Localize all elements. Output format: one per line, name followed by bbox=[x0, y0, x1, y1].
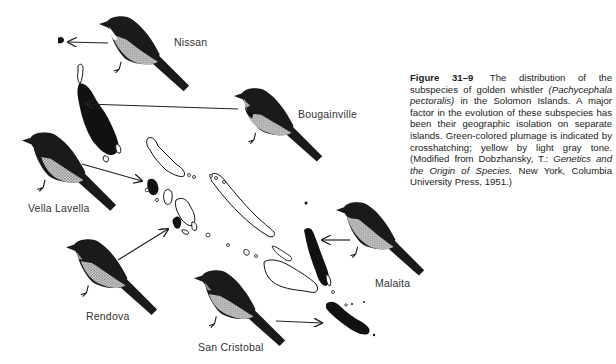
island-bougainville bbox=[77, 84, 118, 155]
island-rendova bbox=[173, 216, 182, 228]
bird-malaita bbox=[336, 202, 424, 275]
island-buka bbox=[78, 64, 83, 84]
island-san-cristobal bbox=[326, 302, 370, 335]
figure-caption: Figure 31–9 The distribution of the subs… bbox=[410, 72, 612, 188]
island-vella-lavella bbox=[147, 179, 158, 195]
label-vella-lavella: Vella Lavella bbox=[28, 202, 90, 214]
bird-bougainville bbox=[234, 88, 322, 161]
label-san-cristobal: San Cristobal bbox=[198, 341, 264, 353]
arrow-nissan bbox=[68, 42, 108, 43]
island-santa-isabel bbox=[211, 173, 275, 236]
label-bougainville: Bougainville bbox=[298, 108, 357, 120]
island-nissan bbox=[58, 37, 64, 43]
island-guadalcanal bbox=[264, 260, 318, 293]
bird-san-cristobal bbox=[194, 270, 285, 346]
island-choiseul bbox=[147, 137, 185, 176]
figure-number: Figure 31–9 bbox=[410, 72, 473, 83]
label-malaita: Malaita bbox=[375, 277, 410, 289]
label-nissan: Nissan bbox=[174, 36, 207, 48]
arrow-rendova bbox=[118, 229, 168, 260]
arrow-bougainville bbox=[86, 104, 238, 109]
bird-nissan bbox=[99, 16, 189, 91]
arrow-san-cristobal bbox=[276, 321, 322, 323]
arrow-vella-lavella bbox=[82, 164, 142, 181]
bird-rendova bbox=[66, 239, 157, 315]
label-rendova: Rendova bbox=[86, 310, 129, 322]
